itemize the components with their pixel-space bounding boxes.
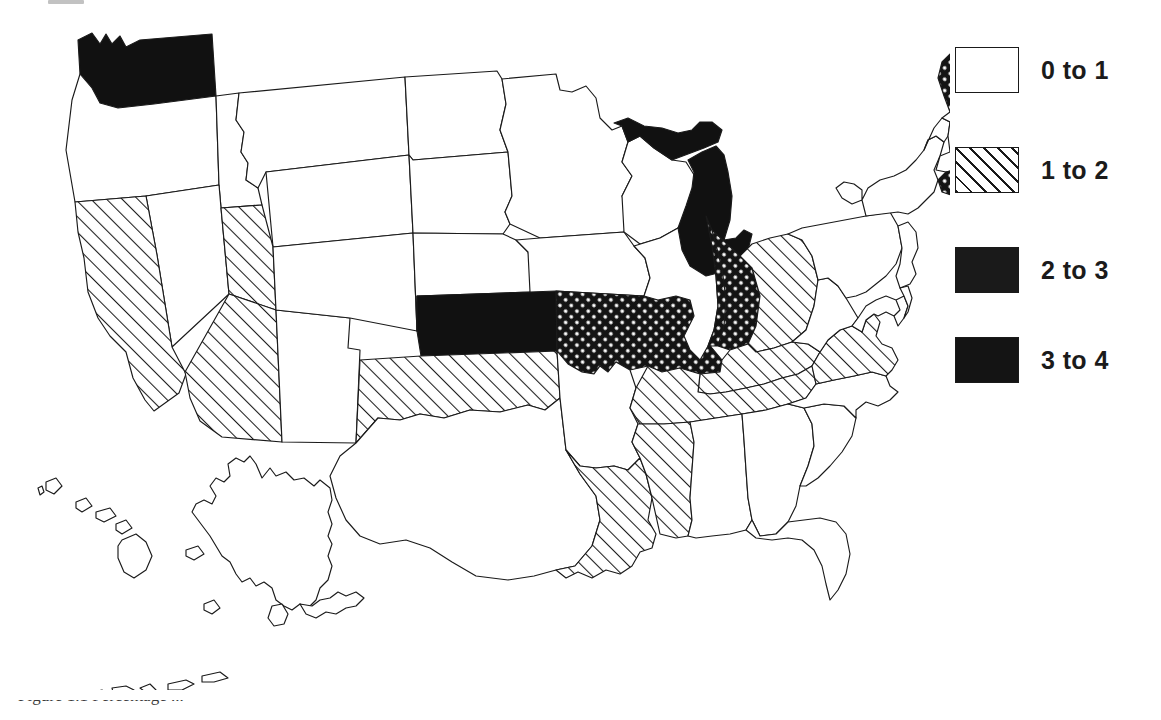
state-washington[interactable] [78, 33, 216, 108]
state-alabama[interactable] [688, 414, 752, 538]
map-legend: 0 to 1 1 to 2 2 to 3 3 to 4 [955, 20, 1155, 400]
state-north-dakota[interactable] [405, 71, 508, 160]
legend-label-1-to-2: 1 to 2 [1041, 158, 1109, 183]
state-hawaii[interactable] [38, 478, 152, 578]
state-minnesota[interactable] [500, 74, 632, 238]
state-wyoming[interactable] [266, 155, 413, 247]
legend-swatch-solid [955, 337, 1019, 383]
legend-swatch-white [955, 47, 1019, 93]
legend-swatch-crosshatch [955, 247, 1019, 293]
legend-item-1-to-2[interactable]: 1 to 2 [955, 142, 1109, 198]
state-south-dakota[interactable] [409, 152, 512, 234]
us-choropleth-map [0, 0, 950, 690]
state-georgia[interactable] [742, 404, 814, 536]
state-alaska[interactable] [192, 456, 332, 610]
alaska-small-isle-a[interactable] [204, 600, 220, 614]
legend-swatch-hatch [955, 147, 1019, 193]
legend-item-0-to-1[interactable]: 0 to 1 [955, 42, 1109, 98]
alaska-small-isle-b[interactable] [186, 546, 204, 560]
legend-label-3-to-4: 3 to 4 [1041, 348, 1109, 373]
figure-caption-strip: Figure 1.1 Percentage ... [0, 700, 1161, 720]
legend-label-0-to-1: 0 to 1 [1041, 58, 1109, 83]
legend-item-3-to-4[interactable]: 3 to 4 [955, 332, 1109, 388]
figure-caption: Figure 1.1 Percentage ... [18, 700, 184, 706]
figure-page: 0 to 1 1 to 2 2 to 3 3 to 4 Figure 1.1 P… [0, 0, 1161, 720]
states-layer [38, 33, 950, 690]
state-kansas[interactable] [417, 291, 557, 356]
state-new-york[interactable] [836, 136, 944, 216]
map-svg [0, 0, 950, 690]
state-new-mexico[interactable] [276, 310, 360, 443]
legend-item-2-to-3[interactable]: 2 to 3 [955, 242, 1109, 298]
state-maryland[interactable] [852, 296, 908, 332]
state-arkansas[interactable] [557, 351, 640, 470]
alaska-kodiak[interactable] [268, 604, 288, 626]
legend-label-2-to-3: 2 to 3 [1041, 258, 1109, 283]
alaska-aleutians[interactable] [94, 672, 228, 690]
state-iowa[interactable] [516, 232, 650, 296]
